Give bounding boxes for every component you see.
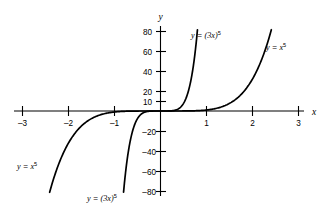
annotation-eq: = (272, 43, 277, 52)
y-tick-label--60: –60 (142, 168, 156, 177)
annotation-exponent: 5 (34, 161, 37, 167)
x-tick-label-2: 2 (250, 119, 255, 128)
x-axis-tick-labels: –3 –2 –1 1 2 3 (18, 119, 301, 128)
y-tick-label-40: 40 (143, 68, 153, 77)
annotation-base: (3x) (204, 31, 217, 40)
y-axis-label: y (157, 12, 163, 22)
y-tick-label-80: 80 (143, 28, 153, 37)
annotation-lhs: y (190, 31, 195, 40)
coordinate-plot: –3 –2 –1 1 2 3 80 60 40 20 10 –20 –40 –6… (0, 0, 325, 215)
curve-annotation-top-outer: y=x5 (265, 42, 286, 52)
svg-text:y=(3x)5: y=(3x)5 (190, 30, 221, 40)
annotation-exponent: 5 (283, 42, 286, 48)
y-tick-label-10: 10 (143, 98, 153, 107)
svg-text:y=x5: y=x5 (265, 42, 286, 52)
x-tick-label--3: –3 (18, 119, 28, 128)
annotation-exponent: 5 (218, 30, 221, 36)
curve-annotation-top-inner: y=(3x)5 (190, 30, 221, 40)
y-tick-label--80: –80 (142, 188, 156, 197)
annotation-exponent: 5 (114, 193, 117, 199)
x-tick-label-1: 1 (204, 119, 209, 128)
svg-text:y=(3x)5: y=(3x)5 (86, 193, 117, 203)
annotation-lhs: y (16, 162, 21, 171)
x-axis-label: x (311, 107, 317, 117)
y-tick-label-60: 60 (143, 48, 153, 57)
annotation-lhs: y (86, 194, 91, 203)
x-tick-label--2: –2 (64, 119, 74, 128)
annotation-eq: = (93, 194, 98, 203)
annotation-eq: = (197, 31, 202, 40)
curve-annotation-bottom-inner: y=(3x)5 (86, 193, 117, 203)
x-tick-label-3: 3 (296, 119, 301, 128)
graph-figure: –3 –2 –1 1 2 3 80 60 40 20 10 –20 –40 –6… (0, 0, 325, 215)
y-tick-label-20: 20 (143, 88, 153, 97)
y-tick-label--20: –20 (142, 128, 156, 137)
svg-text:y=x5: y=x5 (16, 161, 37, 171)
y-tick-label--40: –40 (142, 148, 156, 157)
curve-annotation-bottom-outer: y=x5 (16, 161, 37, 171)
annotation-base: (3x) (100, 194, 113, 203)
x-tick-label--1: –1 (110, 119, 120, 128)
annotation-lhs: y (265, 43, 270, 52)
annotation-eq: = (23, 162, 28, 171)
